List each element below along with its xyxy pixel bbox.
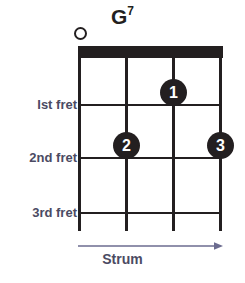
chord-quality-label: 7 bbox=[127, 4, 134, 18]
arrow-right-icon bbox=[78, 241, 223, 251]
chord-root-label: G bbox=[111, 5, 127, 28]
strum-label: Strum bbox=[0, 252, 245, 266]
finger-dot-1: 1 bbox=[160, 79, 187, 106]
fret-label-2: 2nd fret bbox=[29, 151, 77, 164]
fret-label-3: 3rd fret bbox=[32, 206, 77, 219]
fret-line-2 bbox=[78, 157, 222, 159]
finger-dot-2: 2 bbox=[113, 132, 140, 159]
nut-bar bbox=[78, 46, 223, 58]
finger-dot-3: 3 bbox=[207, 132, 234, 159]
chord-title: G7 bbox=[0, 6, 245, 27]
fret-line-3 bbox=[78, 212, 222, 214]
fret-line-1 bbox=[78, 104, 222, 106]
strum-arrow-container bbox=[78, 237, 223, 247]
open-string-circle-icon bbox=[74, 27, 87, 40]
string-1 bbox=[78, 57, 81, 231]
fret-label-1: Ist fret bbox=[37, 98, 77, 111]
chord-diagram: G7 Ist fret 2nd fret 3rd fret 1 2 3 Stru… bbox=[0, 0, 245, 283]
